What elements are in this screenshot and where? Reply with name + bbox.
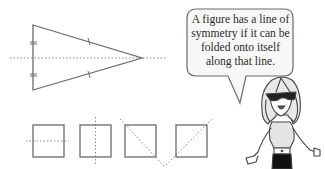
square-vertical-symmetry	[80, 117, 111, 166]
bubble-line-3: folded onto itself	[189, 41, 292, 55]
triangle-figure	[10, 25, 166, 90]
bubble-line-4: along that line.	[189, 55, 292, 69]
square-diagonal-up-symmetry	[166, 119, 212, 165]
cartoon-girl	[246, 77, 320, 169]
square-horizontal-symmetry	[26, 125, 69, 157]
bubble-line-2: symmetry if it can be	[189, 27, 292, 41]
bubble-line-1: A figure has a line of	[189, 13, 292, 27]
speech-bubble-text: A figure has a line of symmetry if it ca…	[189, 13, 292, 69]
square-diagonal-down-symmetry	[120, 119, 164, 166]
